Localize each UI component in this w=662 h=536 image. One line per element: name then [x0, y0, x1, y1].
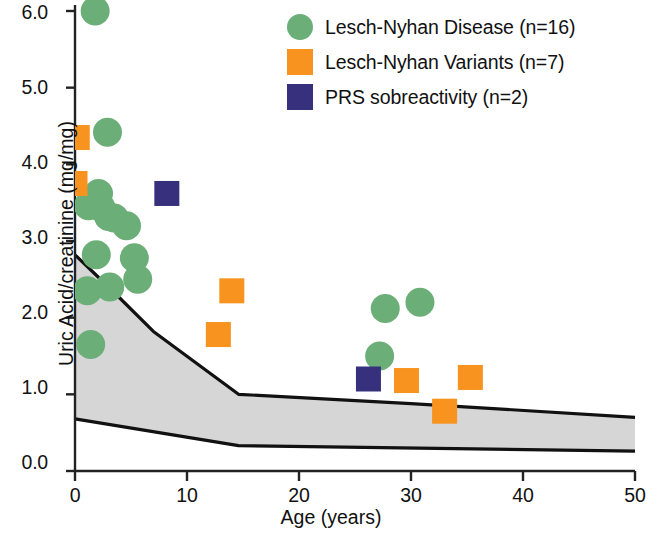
y-tick-label-6: 6.0	[2, 1, 48, 24]
data-point-square	[432, 399, 457, 424]
y-tick-label-1: 1.0	[2, 376, 48, 399]
y-tick-label-3: 3.0	[2, 226, 48, 249]
data-point-circle	[112, 211, 141, 240]
y-tick-label-2: 2.0	[2, 301, 48, 324]
data-point-square	[458, 365, 483, 390]
data-point-circle	[76, 330, 105, 359]
data-point-circle	[82, 240, 111, 269]
data-point-square	[356, 367, 381, 392]
x-tick-label-10: 10	[167, 484, 207, 507]
legend-label-prs: PRS sobreactivity (n=2)	[325, 86, 528, 109]
data-point-square	[394, 368, 419, 393]
y-tick-label-0: 0.0	[2, 451, 48, 474]
legend-marker-square-purple-icon	[287, 84, 313, 110]
y-tick-label-5: 5.0	[2, 76, 48, 99]
legend-item-disease: Lesch-Nyhan Disease (n=16)	[287, 14, 576, 40]
legend-marker-circle-icon	[287, 14, 313, 40]
data-point-square	[154, 181, 179, 206]
data-point-circle	[371, 294, 400, 323]
data-point-circle	[405, 288, 434, 317]
data-point-circle	[95, 273, 124, 302]
x-tick-label-0: 0	[55, 484, 95, 507]
x-tick-label-20: 20	[279, 484, 319, 507]
data-point-circle	[365, 342, 394, 371]
legend-marker-square-orange-icon	[287, 49, 313, 75]
chart-legend: Lesch-Nyhan Disease (n=16) Lesch-Nyhan V…	[287, 14, 576, 110]
normal-range-band	[75, 255, 635, 451]
x-tick-label-40: 40	[503, 484, 543, 507]
x-tick-label-50: 50	[615, 484, 655, 507]
y-tick-label-4: 4.0	[2, 151, 48, 174]
legend-label-disease: Lesch-Nyhan Disease (n=16)	[325, 16, 576, 39]
y-axis-title: Uric Acid/creatinine (mg/mg)	[55, 94, 78, 394]
legend-item-variants: Lesch-Nyhan Variants (n=7)	[287, 49, 576, 75]
data-point-circle	[93, 118, 122, 147]
legend-label-variants: Lesch-Nyhan Variants (n=7)	[325, 51, 564, 74]
data-point-circle	[123, 265, 152, 294]
normal-range-fill	[75, 255, 635, 451]
data-point-circle	[81, 0, 110, 26]
data-point-square	[206, 322, 231, 347]
scatter-chart-figure: 6.0 5.0 4.0 3.0 2.0 1.0 0.0 0 10 20 30 4…	[0, 0, 662, 536]
x-tick-label-30: 30	[391, 484, 431, 507]
data-point-square	[219, 278, 244, 303]
legend-item-prs: PRS sobreactivity (n=2)	[287, 84, 576, 110]
x-axis-title: Age (years)	[0, 506, 662, 529]
